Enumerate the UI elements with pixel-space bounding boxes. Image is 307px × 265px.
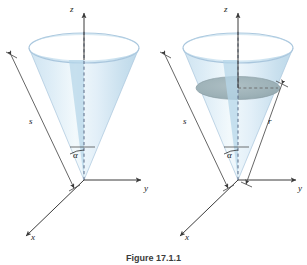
right-slant-label: s — [183, 116, 187, 126]
right-x-axis — [180, 180, 238, 236]
left-cone-panel: z y x s α — [6, 4, 148, 242]
right-cone-panel: z y x s r α — [160, 4, 302, 242]
left-z-axis-label: z — [69, 4, 74, 14]
left-x-axis — [26, 180, 84, 236]
figure-caption-band: Figure 17.1.1 — [0, 253, 307, 265]
right-angle-label: α — [227, 150, 232, 160]
figure-svg: z y x s α — [0, 0, 307, 265]
right-z-axis-label: z — [223, 4, 228, 14]
left-angle-label: α — [73, 150, 78, 160]
figure-root: z y x s α — [0, 0, 307, 265]
figure-caption: Figure 17.1.1 — [126, 254, 181, 263]
left-y-axis-label: y — [143, 183, 148, 193]
left-slant-label: s — [29, 116, 33, 126]
right-y-axis-label: y — [297, 183, 302, 193]
right-x-axis-label: x — [184, 232, 189, 242]
left-x-axis-label: x — [30, 232, 35, 242]
right-radius-label: r — [268, 116, 272, 126]
